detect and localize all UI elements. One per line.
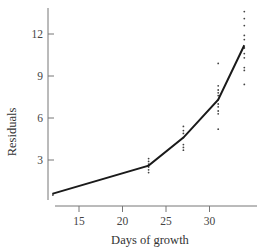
data-point bbox=[183, 147, 185, 149]
y-axis-ticks: 36912 bbox=[32, 28, 55, 166]
x-tick-label: 25 bbox=[160, 215, 172, 227]
data-point bbox=[217, 63, 219, 65]
data-point bbox=[243, 53, 245, 55]
axes bbox=[48, 8, 257, 206]
data-point bbox=[217, 85, 219, 87]
data-point bbox=[243, 70, 245, 72]
data-point bbox=[148, 158, 150, 160]
data-point bbox=[243, 25, 245, 27]
data-point bbox=[183, 130, 185, 132]
data-point bbox=[243, 57, 245, 59]
data-point bbox=[148, 161, 150, 163]
data-point bbox=[148, 169, 150, 171]
x-axis-label: Days of growth bbox=[111, 233, 190, 247]
data-point bbox=[183, 144, 185, 146]
data-point bbox=[243, 11, 245, 13]
fitted-curve-line bbox=[53, 45, 244, 193]
y-tick-label: 9 bbox=[37, 70, 43, 82]
residuals-line-chart: 15202530 36912 Days of growth Residuals bbox=[0, 0, 257, 250]
x-tick-label: 20 bbox=[117, 215, 129, 227]
data-point bbox=[217, 106, 219, 108]
data-point bbox=[148, 172, 150, 174]
data-point bbox=[183, 149, 185, 151]
data-point bbox=[243, 84, 245, 86]
y-tick-label: 12 bbox=[32, 28, 44, 40]
data-point bbox=[217, 113, 219, 115]
data-point bbox=[217, 89, 219, 91]
data-point bbox=[243, 39, 245, 41]
data-point bbox=[183, 126, 185, 128]
x-axis-ticks: 15202530 bbox=[73, 206, 215, 227]
data-point bbox=[217, 103, 219, 105]
data-point bbox=[243, 67, 245, 69]
x-tick-label: 30 bbox=[204, 215, 216, 227]
data-point bbox=[243, 18, 245, 20]
data-point bbox=[217, 110, 219, 112]
data-point bbox=[217, 92, 219, 94]
data-point bbox=[217, 128, 219, 130]
x-tick-label: 15 bbox=[73, 215, 85, 227]
y-tick-label: 3 bbox=[37, 154, 43, 166]
y-tick-label: 6 bbox=[37, 112, 43, 124]
data-point bbox=[183, 133, 185, 135]
y-axis-label: Residuals bbox=[5, 108, 19, 157]
data-point bbox=[243, 35, 245, 37]
